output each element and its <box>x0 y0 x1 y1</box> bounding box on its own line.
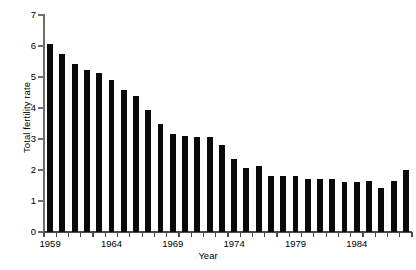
x-axis-tick-mark <box>191 232 192 237</box>
bar <box>109 80 115 232</box>
x-axis-tick-mark <box>203 232 204 237</box>
y-axis-tick-label: 3 <box>22 134 36 144</box>
bar <box>280 176 286 232</box>
x-axis-tick-mark <box>68 232 69 237</box>
x-axis-tick-mark <box>154 232 155 237</box>
bar <box>47 44 53 232</box>
x-axis-tick-mark <box>362 232 363 237</box>
x-axis-tick-label: 1964 <box>91 239 131 249</box>
y-axis-tick-label: 0 <box>22 227 36 237</box>
x-axis-tick-mark <box>313 232 314 237</box>
bar <box>305 179 311 232</box>
x-axis-tick-label: 1984 <box>337 239 377 249</box>
bar <box>354 182 360 232</box>
bar <box>133 96 139 232</box>
bar <box>59 54 65 232</box>
y-axis-tick-label: 1 <box>22 196 36 206</box>
x-axis-tick-mark <box>227 232 228 237</box>
bar <box>243 168 249 232</box>
y-axis-tick-label: 4 <box>22 103 36 113</box>
bar <box>84 70 90 232</box>
x-axis-tick-mark <box>350 232 351 237</box>
bar <box>182 136 188 232</box>
x-axis-tick-mark <box>301 232 302 237</box>
x-axis-tick-mark <box>178 232 179 237</box>
bar <box>268 176 274 232</box>
x-axis-tick-mark <box>326 232 327 237</box>
bar <box>145 110 151 232</box>
x-axis-tick-mark <box>399 232 400 237</box>
bar <box>72 64 78 232</box>
x-axis-tick-mark <box>129 232 130 237</box>
bar <box>96 73 102 232</box>
bar <box>378 188 384 232</box>
bar <box>207 137 213 232</box>
bar <box>342 182 348 232</box>
x-axis-tick-mark <box>252 232 253 237</box>
bar <box>391 181 397 232</box>
fertility-rate-bar-chart: Total fertility rate 01234567 1959196419… <box>0 0 416 270</box>
x-axis-tick-mark <box>215 232 216 237</box>
x-axis-tick-mark <box>289 232 290 237</box>
x-axis-tick-mark <box>338 232 339 237</box>
x-axis-tick-mark <box>240 232 241 237</box>
x-axis-tick-mark <box>92 232 93 237</box>
bar <box>158 124 164 232</box>
x-axis-tick-mark <box>142 232 143 237</box>
x-axis-tick-mark <box>166 232 167 237</box>
bar <box>170 134 176 232</box>
x-axis-tick-mark <box>375 232 376 237</box>
x-axis-tick-mark <box>80 232 81 237</box>
bar <box>194 137 200 232</box>
x-axis-tick-mark <box>411 232 412 237</box>
bar <box>366 181 372 232</box>
y-axis-tick-label: 6 <box>22 41 36 51</box>
x-axis-tick-mark <box>117 232 118 237</box>
bar <box>121 90 127 232</box>
x-axis-title: Year <box>0 250 416 261</box>
y-axis-tick-label: 5 <box>22 72 36 82</box>
x-axis-tick-label: 1959 <box>30 239 70 249</box>
x-axis-tick-label: 1974 <box>214 239 254 249</box>
bar <box>231 159 237 232</box>
x-axis-tick-mark <box>264 232 265 237</box>
bar <box>329 179 335 232</box>
bar <box>317 179 323 232</box>
bar <box>403 170 409 232</box>
x-axis-tick-mark <box>43 232 44 237</box>
x-axis-tick-label: 1969 <box>153 239 193 249</box>
x-axis-tick-mark <box>387 232 388 237</box>
bar <box>219 145 225 232</box>
plot-area <box>44 15 412 232</box>
x-axis-tick-mark <box>56 232 57 237</box>
x-axis-tick-mark <box>105 232 106 237</box>
x-axis-tick-label: 1979 <box>275 239 315 249</box>
bar <box>256 166 262 232</box>
y-axis-tick-label: 7 <box>22 10 36 20</box>
x-axis-tick-mark <box>276 232 277 237</box>
bar <box>293 176 299 232</box>
y-axis-tick-label: 2 <box>22 165 36 175</box>
